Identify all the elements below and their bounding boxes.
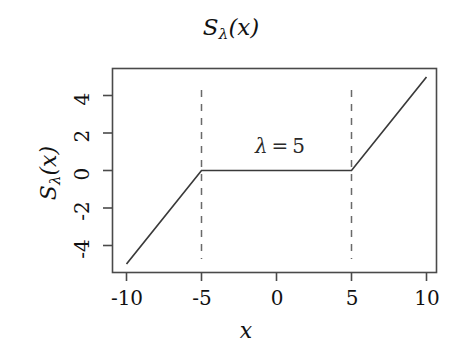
x-tick-label-neg5: -5 — [174, 286, 230, 310]
y-axis-label-subscript: λ — [46, 176, 64, 185]
x-axis-label: x — [231, 318, 261, 343]
x-axis-label-text: x — [240, 318, 252, 343]
figure-panel: Sλ(x) 4 2 0 -2 -4 -10 -5 0 — [0, 0, 462, 360]
x-tick-label-10: 10 — [398, 286, 456, 310]
y-axis-label-symbol: S — [36, 185, 61, 200]
x-tick-label-0: 0 — [251, 286, 303, 310]
y-tick-label-2: 2 — [70, 116, 94, 156]
y-axis-label: Sλ(x) — [36, 113, 64, 233]
y-axis-ticks — [103, 96, 112, 246]
lambda-value: 5 — [292, 134, 305, 158]
soft-threshold-curve — [127, 77, 427, 264]
y-axis-label-suffix: (x) — [36, 146, 61, 176]
y-tick-label-4: 4 — [70, 79, 94, 119]
lambda-annotation: λ = 5 — [232, 134, 328, 158]
x-axis-ticks — [127, 272, 427, 281]
y-tick-label-neg4: -4 — [70, 227, 94, 271]
lambda-symbol: λ — [255, 134, 268, 158]
x-tick-label-neg10: -10 — [96, 286, 158, 310]
lambda-equals: = — [268, 134, 293, 158]
y-tick-label-0: 0 — [70, 154, 94, 194]
x-tick-label-5: 5 — [326, 286, 378, 310]
